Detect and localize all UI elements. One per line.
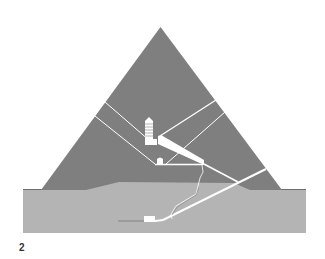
descending-passage-lower bbox=[155, 220, 163, 221]
ground-block bbox=[23, 189, 306, 233]
relieving-chambers bbox=[145, 117, 153, 142]
figure-number-label: 2 bbox=[19, 242, 25, 253]
pyramid-body bbox=[41, 27, 282, 190]
queen-chamber bbox=[157, 158, 163, 165]
antechamber bbox=[153, 139, 157, 143]
subterranean-chamber bbox=[144, 216, 155, 222]
pyramid-cross-section-diagram bbox=[0, 0, 325, 259]
